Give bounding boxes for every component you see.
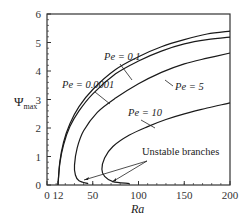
y-tick-label: 4 xyxy=(36,65,42,77)
y-tick-label: 1 xyxy=(36,151,42,163)
leader-pe-0.0001 xyxy=(95,92,110,104)
x-tick-label: 150 xyxy=(176,189,193,201)
leader-pe-0.1 xyxy=(120,64,132,80)
axis-ticks: 012345601250100150200 xyxy=(36,8,239,201)
label-pe-5: Pe = 5 xyxy=(174,81,204,92)
x-tick-label: 100 xyxy=(130,189,147,201)
label-pe-10: Pe = 10 xyxy=(127,107,163,118)
x-tick-label: 200 xyxy=(222,189,239,201)
curve-pe10 xyxy=(102,103,230,184)
x-axis-label: Ra xyxy=(130,202,144,216)
arrow-unstable-1 xyxy=(84,161,147,180)
y-tick-label: 2 xyxy=(36,122,42,134)
x-tick-label: 12 xyxy=(52,189,63,201)
curve-pe5 xyxy=(74,53,230,184)
y-axis-label: Ψmax xyxy=(14,94,37,111)
x-tick-label: 0 xyxy=(44,189,50,201)
arrow-unstable-2 xyxy=(112,161,147,182)
y-tick-label: 5 xyxy=(36,37,42,49)
arrowhead-1 xyxy=(84,177,89,180)
y-tick-label: 0 xyxy=(36,179,42,191)
leader-pe-5 xyxy=(165,80,173,86)
chart: 012345601250100150200 Pe = 0.1 Pe = 0.00… xyxy=(0,0,249,223)
label-pe-0.1: Pe = 0.1 xyxy=(103,51,141,62)
y-tick-label: 6 xyxy=(36,8,42,20)
label-unstable-branches: Unstable branches xyxy=(142,146,219,157)
label-pe-0.0001: Pe = 0.0001 xyxy=(61,79,114,90)
x-tick-label: 50 xyxy=(87,189,99,201)
